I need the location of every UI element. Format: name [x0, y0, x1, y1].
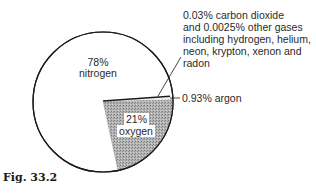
co2-label-line-3: including hydrogen, helium,	[183, 33, 311, 45]
argon-label: 0.93% argon	[182, 92, 242, 104]
oxygen-percent-label: 21%	[126, 113, 147, 125]
air-composition-pie-chart: 78% nitrogen 21% oxygen 0.93% argon 0.03…	[0, 0, 316, 194]
co2-label-line-5: radon	[183, 57, 210, 69]
co2-label-line-2: and 0.0025% other gases	[183, 21, 303, 33]
figure-caption: Fig. 33.2	[3, 171, 57, 184]
co2-label-line-1: 0.03% carbon dioxide	[183, 9, 284, 21]
nitrogen-name-label: nitrogen	[79, 67, 117, 79]
co2-label-line-4: neon, krypton, xenon and	[183, 45, 302, 57]
oxygen-name-label: oxygen	[119, 125, 153, 137]
